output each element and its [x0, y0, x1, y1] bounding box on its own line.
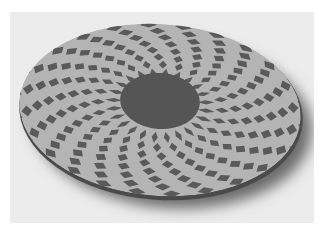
dark-tile: [83, 134, 93, 140]
dark-tile: [77, 141, 86, 148]
photo: [10, 12, 314, 223]
dark-tile: [166, 17, 185, 23]
dark-tile: [62, 32, 77, 39]
dark-tile: [212, 63, 221, 68]
dark-tile: [217, 157, 227, 163]
dark-tile: [101, 68, 110, 73]
dark-tile: [223, 144, 232, 150]
dark-tile: [88, 65, 97, 70]
dark-tile: [93, 21, 110, 27]
dark-tile: [80, 50, 91, 56]
dark-tile: [208, 71, 217, 76]
dark-tile: [93, 52, 103, 57]
dark-tile: [230, 161, 241, 167]
plate-illustration: [10, 12, 314, 223]
dark-tile: [99, 146, 108, 152]
dark-tile: [129, 16, 148, 22]
dark-tile: [243, 163, 254, 170]
dark-tile: [204, 25, 222, 30]
dark-tile: [103, 138, 112, 144]
dark-tile: [236, 146, 246, 153]
